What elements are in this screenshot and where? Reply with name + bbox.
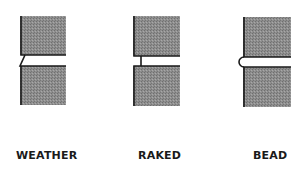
bead-joint-illustration bbox=[239, 17, 291, 107]
bead-label: BEAD bbox=[253, 149, 287, 162]
lower-brick bbox=[133, 66, 180, 106]
weather-label: WEATHER bbox=[16, 149, 77, 162]
upper-brick bbox=[243, 17, 291, 57]
upper-brick bbox=[20, 16, 66, 55]
raked-label: RAKED bbox=[138, 149, 181, 162]
lower-brick bbox=[243, 67, 291, 107]
upper-brick bbox=[133, 16, 180, 56]
weather-joint-illustration bbox=[20, 16, 66, 105]
raked-joint-illustration bbox=[133, 16, 180, 106]
lower-brick bbox=[20, 66, 66, 105]
